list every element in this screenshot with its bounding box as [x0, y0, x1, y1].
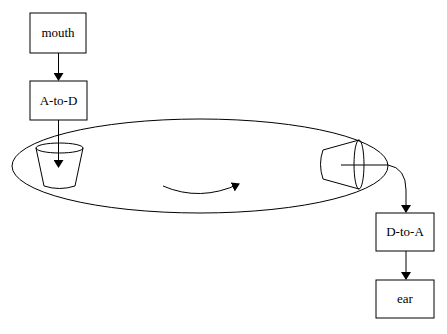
ear-label: ear [397, 291, 414, 306]
a-to-d-node: A-to-D [30, 81, 87, 120]
flow-arrow-icon [163, 184, 239, 194]
a-to-d-label: A-to-D [40, 93, 78, 108]
ear-node: ear [376, 280, 434, 318]
diagram-canvas: mouth A-to-D D-to-A ear [0, 0, 447, 334]
channel-ellipse [12, 119, 388, 213]
d-to-a-node: D-to-A [376, 213, 434, 251]
mouth-node: mouth [30, 13, 86, 53]
mouth-label: mouth [41, 25, 75, 40]
arrow-cup-to-dtoa [341, 165, 406, 212]
input-cup-icon [36, 143, 83, 189]
d-to-a-label: D-to-A [386, 224, 424, 239]
